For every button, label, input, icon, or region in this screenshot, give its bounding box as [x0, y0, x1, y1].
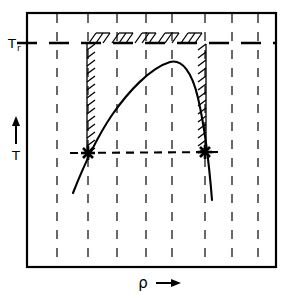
- x-axis-label: ρ: [138, 274, 148, 292]
- figure-background: [0, 0, 297, 295]
- y-axis-label: T: [11, 148, 20, 163]
- t-r-label: T: [7, 36, 16, 51]
- coexistence-point-left: [81, 146, 95, 160]
- t-r-label-subscript: r: [17, 43, 21, 53]
- coexistence-point-right: [198, 145, 212, 159]
- phase-diagram-svg: T T r ρ: [0, 0, 297, 295]
- phase-diagram-figure: T T r ρ: [0, 0, 297, 295]
